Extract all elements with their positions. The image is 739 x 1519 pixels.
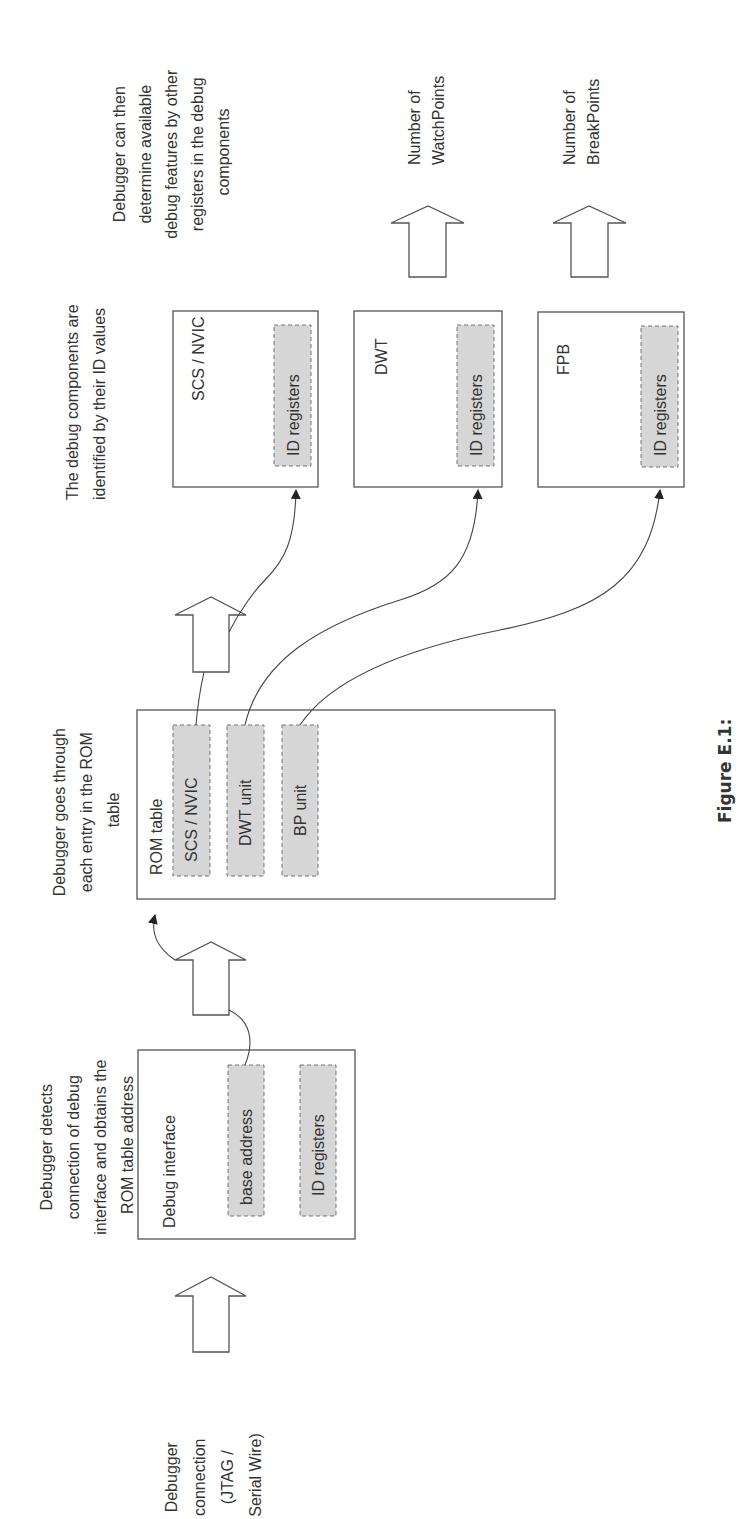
detect-to-rom-arrow-icon — [175, 942, 246, 1015]
svg-text:Debugger detects connect: Debugger detects connection of debug int… — [38, 1055, 136, 1235]
watchpoints-label: Number of WatchPoints — [406, 76, 447, 165]
fpb-component-block: FPB ID registers — [538, 312, 684, 487]
svg-text:ID registers: ID registers — [468, 374, 485, 456]
debug-interface-title: Debug interface — [161, 1115, 178, 1228]
svg-text:DWT unit: DWT unit — [237, 779, 254, 846]
rom-table-title: ROM table — [148, 798, 165, 875]
svg-text:The debug components are: The debug components are identified by t… — [64, 300, 108, 500]
svg-text:Number of BreakPoints: Number of BreakPoints — [561, 79, 602, 165]
connection-arrow-icon — [175, 1277, 246, 1352]
figure-caption: Figure E.1: — [715, 719, 735, 823]
rom-to-components-arrow-icon — [175, 597, 246, 672]
svg-text:DWT: DWT — [373, 338, 390, 375]
svg-text:Debugger can then determ: Debugger can then determine available de… — [111, 65, 232, 238]
svg-text:FPB: FPB — [555, 344, 572, 375]
connection-label: Debugger connection (JTAG / Serial Wire) — [163, 1433, 264, 1517]
breakpoints-arrow-icon — [553, 206, 626, 277]
svg-text:SCS / NVIC: SCS / NVIC — [190, 317, 207, 401]
detect-label: Debugger detects connection of debug int… — [38, 1055, 136, 1235]
rom-table-block: ROM table SCS / NVIC DWT unit BP unit — [137, 710, 555, 899]
scs-nvic-component-block: SCS / NVIC ID registers — [173, 311, 318, 487]
svg-text:Debugger connection: Debugger connection (JTAG / Serial Wire) — [163, 1433, 264, 1517]
svg-text:ID registers: ID registers — [285, 374, 302, 456]
svg-text:Number of WatchPoints: Number of WatchPoints — [406, 76, 447, 165]
debug-id-register-label: ID registers — [310, 1114, 327, 1196]
svg-text:Debugger goes through ea: Debugger goes through each entry in the … — [51, 724, 122, 897]
svg-text:SCS / NVIC: SCS / NVIC — [183, 778, 200, 862]
breakpoints-label: Number of BreakPoints — [561, 79, 602, 165]
features-label: Debugger can then determine available de… — [111, 65, 232, 238]
watchpoints-arrow-icon — [391, 206, 464, 277]
rom-walk-label: Debugger goes through each entry in the … — [51, 724, 122, 897]
svg-text:BP unit: BP unit — [292, 784, 309, 836]
identify-label: The debug components are identified by t… — [64, 300, 108, 500]
dwt-component-block: DWT ID registers — [354, 311, 502, 487]
svg-text:ID registers: ID registers — [652, 374, 669, 456]
base-address-label: base address — [238, 1109, 255, 1205]
debug-discovery-diagram: Debugger connection (JTAG / Serial Wire)… — [0, 0, 739, 1519]
debug-interface-block: Debug interface base address ID register… — [138, 1050, 355, 1239]
